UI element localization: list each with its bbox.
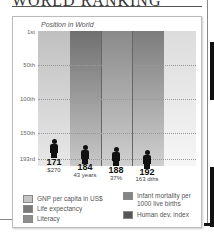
- page-title: WORLD RANKING: [12, 0, 161, 10]
- swatch-icon: [123, 192, 133, 200]
- ytick-150th: 150th: [13, 130, 35, 136]
- chart-title: Position in World: [41, 21, 94, 28]
- corner-marker: [204, 223, 214, 226]
- ytick-50th: 50th: [13, 62, 35, 68]
- legend-item-infant-mortality-line2: 1000 live births: [137, 200, 181, 207]
- person-icon: [49, 139, 59, 158]
- gridline-50th: [38, 65, 196, 66]
- swatch-icon: [123, 211, 133, 219]
- ytick-100th: 100th: [13, 96, 35, 102]
- title-rule: [12, 6, 202, 7]
- value-life-expectancy: 43 years: [68, 172, 102, 178]
- legend-item-hdi: Human dev. index: [123, 211, 189, 219]
- value-literacy: 37%: [99, 175, 133, 181]
- ytick-193rd: 193rd: [13, 156, 35, 162]
- swatch-icon: [23, 205, 33, 213]
- legend-item-literacy: Literacy: [23, 215, 60, 223]
- swatch-icon: [23, 195, 33, 203]
- rank-literacy: 188: [101, 165, 131, 175]
- side-marker-bottom: [210, 167, 214, 227]
- gridline-150th: [38, 133, 196, 134]
- value-gnp: $270: [37, 167, 71, 173]
- swatch-icon: [23, 215, 33, 223]
- rank-gnp: 171: [39, 157, 69, 167]
- chart-panel: Position in World 1st 50th 100th 150th 1…: [12, 16, 202, 228]
- rank-life-expectancy: 184: [70, 162, 100, 172]
- value-infant-mortality: 163 dths: [130, 176, 164, 182]
- legend-item-gnp: GNP per capita in US$: [23, 195, 103, 203]
- legend-item-life-expectancy: Life expectancy: [23, 205, 82, 213]
- gridline-100th: [38, 99, 196, 100]
- person-icon: [111, 147, 121, 166]
- side-marker-top: [210, 42, 214, 100]
- ytick-1st: 1st: [13, 29, 35, 35]
- page-edge-line: [207, 0, 208, 224]
